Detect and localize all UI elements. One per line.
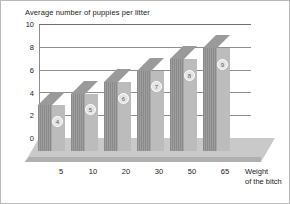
bar-top-face bbox=[203, 35, 230, 48]
bar-category-30[interactable] bbox=[137, 58, 164, 151]
bar-front-face bbox=[84, 94, 98, 151]
x-axis-title: Weight of the bitch bbox=[245, 167, 282, 187]
bar-side-face bbox=[104, 82, 117, 151]
bar-top-face bbox=[38, 92, 65, 105]
bar-top-face bbox=[71, 81, 98, 94]
bar-value-badge-10: 5 bbox=[85, 104, 96, 115]
bar-front-face bbox=[51, 105, 65, 151]
bar-side-face bbox=[137, 71, 150, 151]
bar-value-badge-20: 6 bbox=[118, 93, 129, 104]
bar-category-10[interactable] bbox=[71, 81, 98, 151]
bar-side-face bbox=[71, 94, 84, 151]
bar-side-face bbox=[203, 48, 216, 151]
bar-side-face bbox=[170, 59, 183, 151]
x-tick-label-50: 50 bbox=[181, 167, 203, 176]
bar-value-badge-65: 9 bbox=[217, 59, 228, 70]
x-tick-label-10: 10 bbox=[82, 167, 104, 176]
bar-value-badge-30: 7 bbox=[151, 81, 162, 92]
bar-value-badge-50: 8 bbox=[184, 70, 195, 81]
x-tick-label-20: 20 bbox=[115, 167, 137, 176]
x-tick-label-65: 65 bbox=[214, 167, 236, 176]
x-tick-label-30: 30 bbox=[148, 167, 170, 176]
x-axis-title-line1: Weight bbox=[245, 167, 282, 177]
bar-category-65[interactable] bbox=[203, 35, 230, 151]
chart-figure: Average number of puppies per litter 10 … bbox=[0, 0, 290, 204]
bar-category-50[interactable] bbox=[170, 46, 197, 151]
bar-value-badge-5: 4 bbox=[52, 116, 63, 127]
bar-top-face bbox=[170, 46, 197, 59]
bar-side-face bbox=[38, 105, 51, 151]
bar-top-face bbox=[104, 69, 131, 82]
x-tick-label-5: 5 bbox=[50, 167, 72, 176]
bar-category-20[interactable] bbox=[104, 69, 131, 151]
bar-top-face bbox=[137, 58, 164, 71]
x-axis-title-line2: of the bitch bbox=[245, 177, 282, 187]
